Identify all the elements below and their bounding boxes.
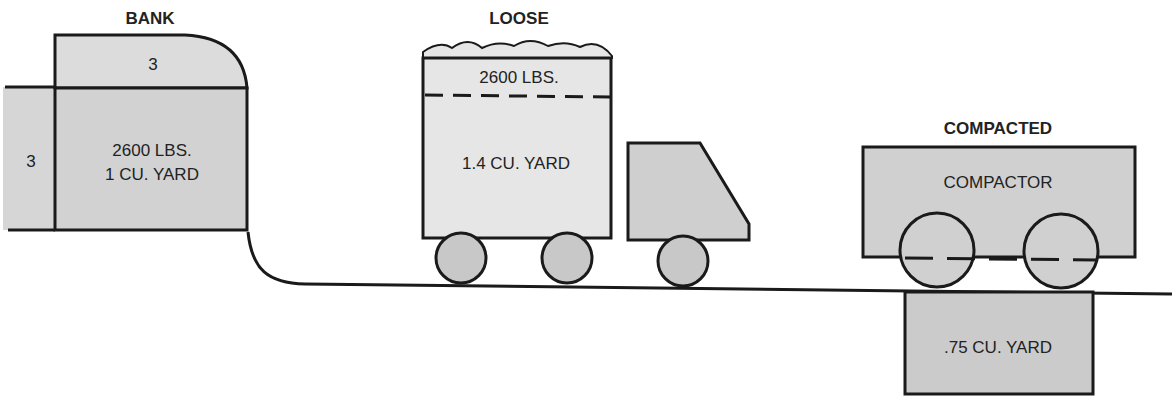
compacted-volume: .75 CU. YARD — [944, 338, 1052, 357]
bank-side-dimension: 3 — [26, 152, 35, 171]
loose-title: LOOSE — [489, 9, 549, 28]
bank-top-dimension: 3 — [148, 55, 157, 74]
truck-cab — [628, 143, 749, 240]
loose-heap — [423, 41, 612, 58]
compacted-title: COMPACTED — [944, 119, 1052, 138]
compactor-label: COMPACTOR — [944, 173, 1053, 192]
loose-weight: 2600 LBS. — [479, 68, 558, 87]
bank-volume: 1 CU. YARD — [105, 165, 199, 184]
roller — [1024, 214, 1098, 288]
roller — [900, 213, 974, 287]
wheel — [658, 236, 708, 286]
wheel — [542, 233, 592, 283]
bank-section — [3, 35, 247, 230]
soil-volume-diagram: BANK 3 3 2600 LBS. 1 CU. YARD LOOSE 2600… — [0, 0, 1175, 403]
bank-weight: 2600 LBS. — [112, 141, 191, 160]
loose-volume: 1.4 CU. YARD — [462, 154, 570, 173]
bank-title: BANK — [125, 9, 175, 28]
wheel — [436, 233, 486, 283]
